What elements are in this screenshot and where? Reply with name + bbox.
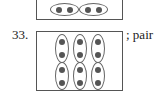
dot-icon [77,80,83,86]
group-oval [55,62,69,90]
problem-answer: ; pair [126,28,153,41]
group-oval [73,62,87,90]
dot-icon [95,67,101,73]
group-oval [73,34,87,63]
dot-icon [59,67,65,73]
dot-icon [59,52,65,58]
dot-icon [95,80,101,86]
dot-icon [77,67,83,73]
dot-icon [56,7,62,13]
problem-33-figure-box [36,31,123,91]
group-oval [50,3,79,16]
dot-icon [59,80,65,86]
group-oval [91,34,105,63]
group-oval [55,34,69,63]
dot-icon [95,52,101,58]
problem-32-figure-box [36,0,123,20]
dot-icon [59,39,65,45]
dot-icon [95,39,101,45]
dot-icon [96,7,102,13]
group-oval [79,3,108,16]
dot-icon [85,7,91,13]
dot-icon [77,52,83,58]
group-oval [91,62,105,90]
problem-number: 33. [12,28,28,41]
dot-icon [77,39,83,45]
dot-icon [67,7,73,13]
